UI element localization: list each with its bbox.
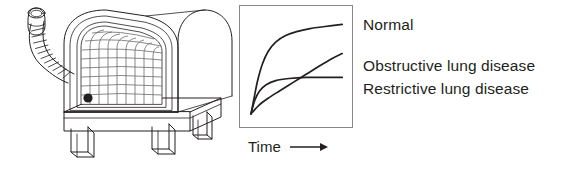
x-axis-label: Time: [248, 138, 281, 155]
chart-frame: [240, 6, 353, 128]
gridded-chart-paper: [81, 26, 162, 104]
curve-legend: Normal Obstructive lung disease Restrict…: [363, 0, 562, 171]
legend-item-normal: Normal: [363, 16, 414, 34]
support-legs: [71, 112, 212, 157]
legend-item-restrictive: Restrictive lung disease: [363, 80, 529, 98]
spirogram-chart: Time: [236, 0, 362, 171]
x-axis-arrow: [290, 143, 328, 151]
spirometer-illustration: [0, 0, 236, 171]
legend-item-obstructive: Obstructive lung disease: [363, 57, 535, 75]
spirometry-figure: Time Normal Obstructive lung disease Res…: [0, 0, 562, 171]
corrugated-breathing-tube: [29, 21, 74, 83]
recording-pen-marker: [83, 93, 92, 102]
